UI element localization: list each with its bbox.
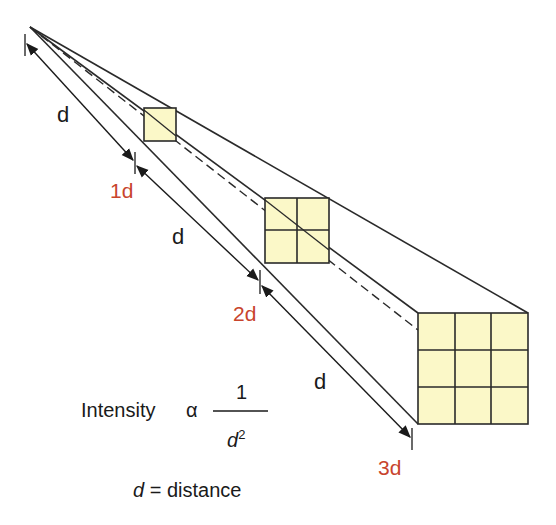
segment-arrow-2 <box>137 166 258 280</box>
ray-bottom-edge <box>30 27 418 424</box>
box-medium <box>265 198 329 263</box>
legend-equals: = <box>150 479 162 501</box>
formula-denominator: d2 <box>227 428 245 450</box>
marker-2d: 2d <box>233 303 256 324</box>
inverse-square-diagram: d d d 1d 2d 3d Intensity α 1 d2 d = dist… <box>0 0 556 525</box>
legend-meaning: distance <box>167 479 242 501</box>
segment-label-1: d <box>57 104 69 126</box>
segment-arrow-3 <box>262 286 410 437</box>
legend-var: d <box>133 479 144 501</box>
formula-denominator-var: d <box>227 429 238 451</box>
segment-arrow-1 <box>27 44 133 160</box>
legend-line: d = distance <box>133 480 241 500</box>
measurement-arrows <box>27 44 410 437</box>
formula-proportional-symbol: α <box>186 400 198 420</box>
segment-label-3: d <box>314 371 326 393</box>
formula-denominator-exp: 2 <box>238 427 245 442</box>
center-dashed-line <box>30 27 418 330</box>
diagram-graphics <box>0 0 556 525</box>
box-large <box>418 313 528 424</box>
ray-top-left <box>30 27 418 313</box>
formula-numerator: 1 <box>236 382 247 402</box>
formula-lhs: Intensity <box>81 400 155 420</box>
ray-top-edge <box>30 27 528 313</box>
marker-3d: 3d <box>378 457 401 478</box>
segment-label-2: d <box>172 226 184 248</box>
box-small <box>144 108 176 141</box>
marker-1d: 1d <box>110 180 133 201</box>
